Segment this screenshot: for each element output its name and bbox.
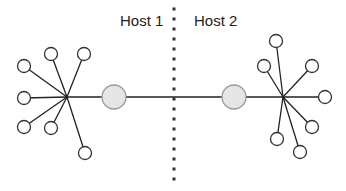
host1-label: Host 1 xyxy=(120,12,163,29)
node-circle xyxy=(306,60,319,73)
divider-dot xyxy=(173,148,176,151)
host2-label: Host 2 xyxy=(194,12,237,29)
node-circle xyxy=(294,146,307,159)
divider-dot xyxy=(173,38,176,41)
node-circle xyxy=(45,48,58,61)
node-circle xyxy=(319,91,332,104)
divider-dot xyxy=(173,168,176,171)
gateway-circle-host2 xyxy=(222,85,246,109)
divider-dot xyxy=(173,48,176,51)
diagram-canvas: Host 1 Host 2 xyxy=(0,0,346,191)
node-link xyxy=(276,41,283,97)
gateway-circle-host1 xyxy=(102,85,126,109)
divider-dot xyxy=(173,138,176,141)
divider-dot xyxy=(173,28,176,31)
node-circle xyxy=(78,48,91,61)
divider-dot xyxy=(173,118,176,121)
node-circle xyxy=(18,60,31,73)
divider-dot xyxy=(173,8,176,11)
divider-dot xyxy=(173,18,176,21)
node-circle xyxy=(18,92,31,105)
divider-dot xyxy=(173,68,176,71)
node-circle xyxy=(18,121,31,134)
node-circle xyxy=(306,121,319,134)
node-link xyxy=(67,97,85,153)
node-circle xyxy=(258,60,271,73)
divider-dot xyxy=(173,78,176,81)
divider-dot xyxy=(173,108,176,111)
divider-dot xyxy=(173,158,176,161)
node-circle xyxy=(270,35,283,48)
network-diagram xyxy=(0,0,346,191)
node-circle xyxy=(45,122,58,135)
node-link xyxy=(24,97,67,127)
divider-dot xyxy=(173,128,176,131)
divider-dot xyxy=(173,178,176,181)
node-circle xyxy=(271,133,284,146)
divider-dot xyxy=(173,98,176,101)
divider-dot xyxy=(173,58,176,61)
node-circle xyxy=(79,147,92,160)
divider-dot xyxy=(173,88,176,91)
